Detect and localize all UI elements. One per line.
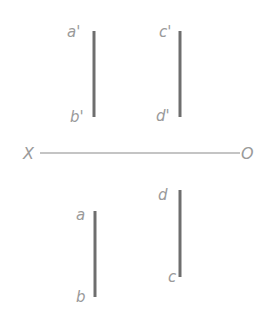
label-d-prime: d' <box>156 107 170 125</box>
label-a-prime: a' <box>67 23 80 41</box>
label-d: d <box>158 186 168 204</box>
projection-diagram: X O a' b' c' d' a b d c <box>0 0 265 336</box>
label-b: b <box>76 288 86 306</box>
label-a: a <box>76 206 85 224</box>
axis-label-o: O <box>241 144 254 163</box>
label-b-prime: b' <box>70 108 84 126</box>
label-c: c <box>168 268 177 286</box>
label-c-prime: c' <box>159 23 171 41</box>
axis-label-x: X <box>22 144 35 163</box>
